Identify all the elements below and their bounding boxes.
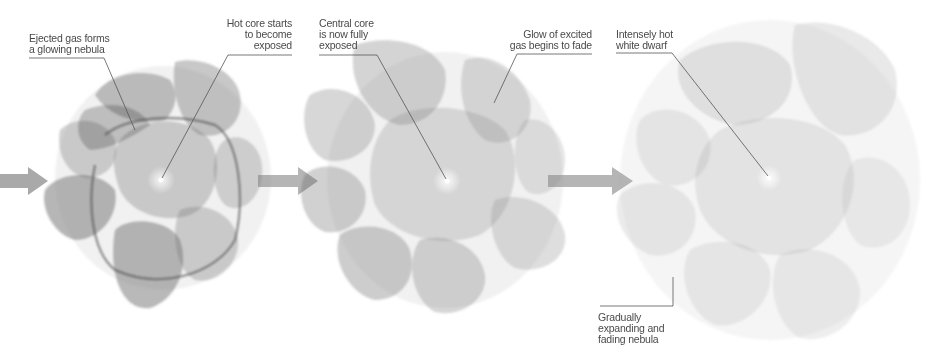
label-hot-core: Hot core starts to become exposed <box>200 18 292 51</box>
white-dwarf-stage-3 <box>756 165 782 191</box>
planetary-nebula-diagram: Ejected gas forms a glowing nebula Hot c… <box>0 0 931 356</box>
diagram-canvas <box>0 0 931 356</box>
nebula-stage-2 <box>301 40 565 313</box>
label-fading-nebula: Gradually expanding and fading nebula <box>598 312 664 345</box>
label-central-core: Central core is now fully exposed <box>319 18 374 51</box>
label-glow-fade: Glow of excited gas begins to fade <box>480 29 592 51</box>
central-core-stage-2 <box>433 167 461 195</box>
hot-core-stage-1 <box>147 166 175 194</box>
label-white-dwarf: Intensely hot white dwarf <box>616 29 673 51</box>
arrow-in <box>0 167 48 195</box>
label-ejected-gas: Ejected gas forms a glowing nebula <box>29 33 110 55</box>
